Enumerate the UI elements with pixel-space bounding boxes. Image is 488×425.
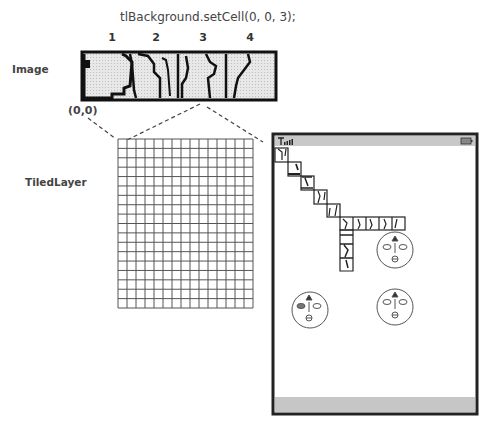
tiled-layer-grid (118, 139, 253, 308)
tile-dash-left (125, 104, 200, 141)
tile-image-strip (82, 52, 276, 100)
diagram-canvas (0, 0, 488, 425)
origin-dash-line (88, 118, 116, 139)
status-bar (275, 136, 475, 146)
mapping-lines (88, 104, 263, 142)
battery-icon (461, 138, 473, 144)
phone-screen (273, 134, 477, 414)
soft-key-bar (275, 397, 475, 412)
tile-dash-right (207, 107, 263, 142)
